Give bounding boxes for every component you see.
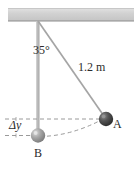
delta-y-label: Δy <box>9 119 21 131</box>
ball-a-label: A <box>113 118 122 130</box>
ball-b-label: B <box>34 147 42 159</box>
ceiling-support <box>8 8 134 21</box>
ball-b <box>31 128 45 142</box>
ball-a <box>99 112 113 126</box>
angle-label: 35° <box>33 44 50 56</box>
pendulum-diagram: 35° 1.2 m Δy A B <box>0 0 134 174</box>
length-label: 1.2 m <box>78 61 105 73</box>
diagram-canvas <box>0 0 134 174</box>
swing-arc <box>40 119 104 137</box>
